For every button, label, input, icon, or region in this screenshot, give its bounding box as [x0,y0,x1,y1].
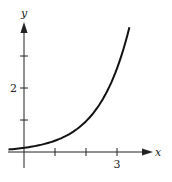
exponential-graph: x y 32 [0,0,172,182]
ticks [20,56,117,156]
y-tick-label: 2 [10,82,17,95]
x-tick-label: 3 [114,158,121,171]
x-axis-arrow-icon [142,149,153,156]
x-axis-label: x [155,146,162,159]
y-axis-label: y [20,7,28,20]
y-axis-arrow-icon [21,22,28,33]
